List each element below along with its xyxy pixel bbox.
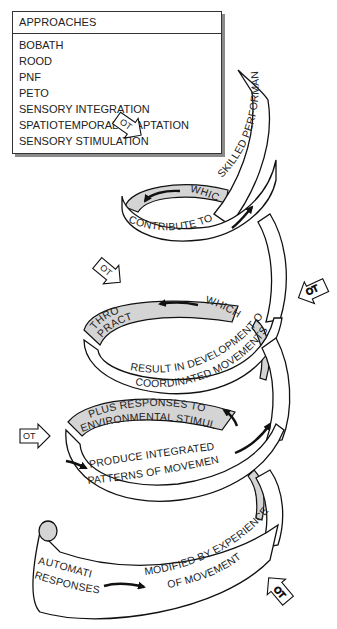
label-through: THROUGH (0, 0, 120, 331)
label-practice: PRACTICE (0, 0, 134, 339)
ot-arrow-icon: OT (90, 254, 128, 292)
ot-arrow-icon: OT (20, 424, 50, 448)
spiral-diagram: SKILLED PERFORMANCE CONTRIBUTE TO WHICH … (0, 0, 337, 629)
ribbon-text: SKILLED PERFORMANCE CONTRIBUTE TO WHICH … (0, 0, 271, 595)
label-which-top: WHICH (0, 0, 222, 203)
label-automatic: AUTOMATIC (0, 0, 94, 580)
label-skilled-performance: SKILLED PERFORMANCE (0, 0, 261, 179)
ot-arrow-icon: OT (110, 108, 148, 145)
svg-text:OT: OT (23, 431, 36, 441)
